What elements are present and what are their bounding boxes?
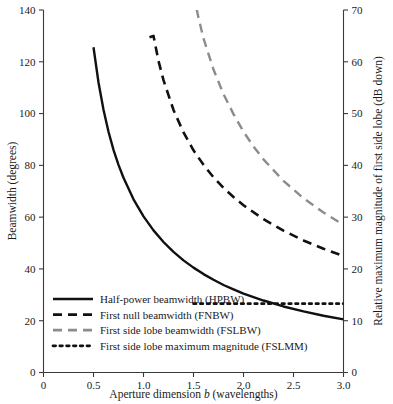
legend-label: First side lobe maximum magnitude (FSLMM… xyxy=(100,340,308,353)
chart-figure: 020406080100120140 010203040506070 00.51… xyxy=(0,0,393,404)
legend-label: First side lobe beamwidth (FSLBW) xyxy=(100,324,261,337)
left-tick-label: 60 xyxy=(25,211,37,223)
x-tick-label: 0 xyxy=(41,379,47,391)
data-series-group xyxy=(94,0,344,319)
x-tick-label: 3.0 xyxy=(337,379,351,391)
legend-label: First null beamwidth (FNBW) xyxy=(100,309,234,322)
right-tick-label: 30 xyxy=(352,211,364,223)
right-tick-label: 0 xyxy=(352,366,358,378)
legend-item: First null beamwidth (FNBW) xyxy=(53,309,234,322)
left-tick-label: 140 xyxy=(19,4,36,16)
right-tick-label: 70 xyxy=(352,4,364,16)
x-axis-title: Aperture dimension b (wavelengths) xyxy=(109,388,277,401)
y-axis-title-right: Relative maximum magnitude of first side… xyxy=(372,56,385,326)
beamwidth-chart: 020406080100120140 010203040506070 00.51… xyxy=(0,0,393,404)
legend-item: First side lobe beamwidth (FSLBW) xyxy=(53,324,261,337)
legend-item: First side lobe maximum magnitude (FSLMM… xyxy=(53,340,308,353)
right-tick-label: 50 xyxy=(352,107,364,119)
legend-item: Half-power beamwidth (HPBW) xyxy=(53,293,245,306)
x-axis-title-post: (wavelengths) xyxy=(210,388,278,401)
left-tick-label: 100 xyxy=(19,107,36,119)
right-tick-label: 20 xyxy=(352,263,364,275)
right-tick-label: 10 xyxy=(352,315,364,327)
y-axis-title-left: Beamwidth (degrees) xyxy=(6,141,19,240)
left-tick-label: 0 xyxy=(30,366,36,378)
left-tick-label: 120 xyxy=(19,56,36,68)
right-tick-label: 60 xyxy=(352,56,364,68)
x-tick-label: 2.5 xyxy=(287,379,301,391)
left-axis-ticks: 020406080100120140 xyxy=(19,4,44,379)
right-axis-ticks: 010203040506070 xyxy=(344,4,364,379)
x-axis-title-pre: Aperture dimension xyxy=(109,388,204,401)
x-tick-label: 0.5 xyxy=(87,379,101,391)
left-tick-label: 80 xyxy=(25,159,37,171)
series-line-fslbw xyxy=(194,0,344,225)
series-line-fnbw xyxy=(150,36,344,256)
left-tick-label: 20 xyxy=(25,315,37,327)
legend-label: Half-power beamwidth (HPBW) xyxy=(100,293,245,306)
right-tick-label: 40 xyxy=(352,159,364,171)
left-tick-label: 40 xyxy=(25,263,37,275)
